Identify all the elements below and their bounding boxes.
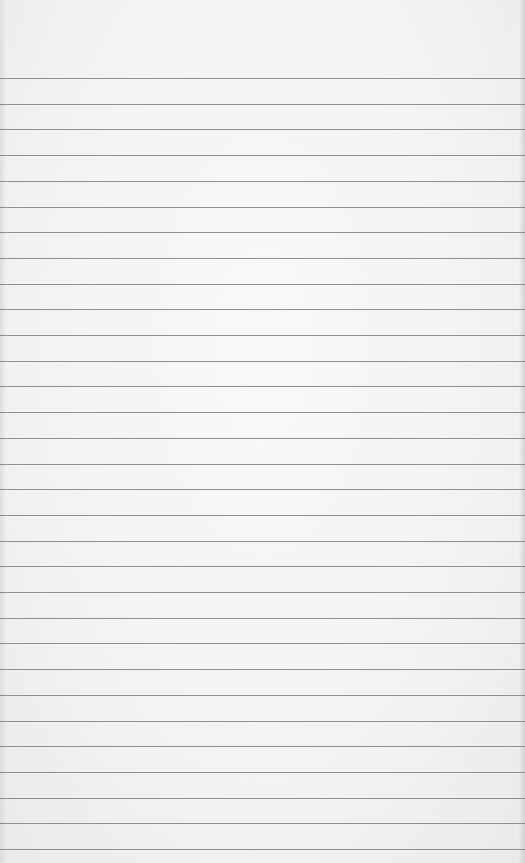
ruled-line: [0, 155, 525, 156]
ruled-line: [0, 489, 525, 490]
ruled-line: [0, 386, 525, 387]
ruled-line: [0, 721, 525, 722]
ruled-line: [0, 104, 525, 105]
ruled-line: [0, 566, 525, 567]
ruled-line: [0, 695, 525, 696]
ruled-line: [0, 592, 525, 593]
ruled-line: [0, 438, 525, 439]
ruled-line: [0, 232, 525, 233]
ruled-line: [0, 207, 525, 208]
ruled-line: [0, 541, 525, 542]
ruled-line: [0, 464, 525, 465]
ruled-line: [0, 258, 525, 259]
ruled-line: [0, 618, 525, 619]
ruled-line: [0, 284, 525, 285]
ruled-line: [0, 798, 525, 799]
ruled-line: [0, 78, 525, 79]
ruled-line: [0, 515, 525, 516]
ruled-line: [0, 772, 525, 773]
ruled-line: [0, 746, 525, 747]
ruled-line: [0, 181, 525, 182]
ruled-line: [0, 643, 525, 644]
ruled-line: [0, 335, 525, 336]
ruled-line: [0, 669, 525, 670]
ruled-line: [0, 823, 525, 824]
ruled-line: [0, 849, 525, 850]
ruled-line: [0, 309, 525, 310]
lined-paper-sheet: [0, 0, 525, 863]
ruled-line: [0, 412, 525, 413]
ruled-line: [0, 129, 525, 130]
ruled-line: [0, 361, 525, 362]
